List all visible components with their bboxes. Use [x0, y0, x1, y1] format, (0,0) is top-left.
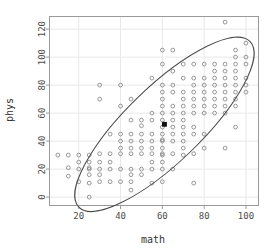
centroid-marker [162, 122, 167, 127]
y-tick-label: 20 [37, 164, 47, 175]
y-tick-label: 40 [37, 136, 47, 147]
x-tick-label: 20 [73, 211, 84, 221]
y-tick-label: 80 [37, 80, 47, 91]
x-tick-label: 100 [238, 211, 254, 221]
y-tick-label: 0 [37, 194, 47, 199]
y-tick-label: 100 [37, 49, 47, 65]
x-tick-label: 60 [157, 211, 168, 221]
y-tick-label: 120 [37, 21, 47, 37]
x-tick-label: 80 [199, 211, 210, 221]
plot-canvas: 20406080100 020406080100120 math phys [0, 0, 271, 252]
scatter-plot-figure: 20406080100 020406080100120 math phys [0, 0, 271, 252]
y-axis-title: phys [4, 98, 15, 122]
centroid-square [162, 122, 167, 127]
x-axis-title: math [141, 234, 165, 245]
x-tick-label: 40 [115, 211, 126, 221]
y-tick-label: 60 [37, 108, 47, 119]
